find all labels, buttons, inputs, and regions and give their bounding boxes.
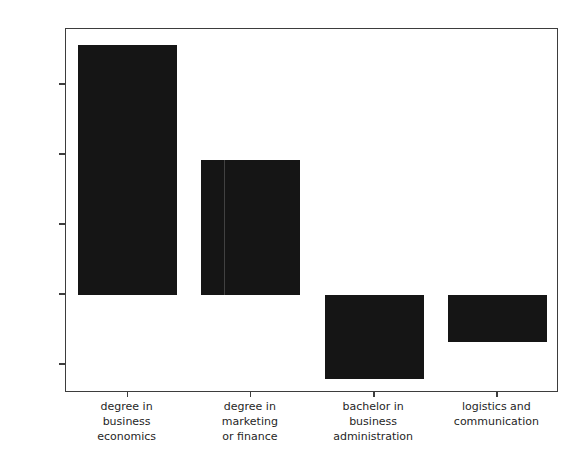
plot-area (65, 28, 558, 392)
x-tick-label: bachelor in business administration (312, 399, 435, 444)
bar (78, 45, 177, 295)
x-tick-mark (496, 392, 498, 397)
x-tick-mark (373, 392, 375, 397)
bar (448, 295, 547, 342)
chart-figure: Skill Difference 6040200-20 degree in bu… (0, 0, 587, 464)
x-tick-label: logistics and communication (435, 399, 558, 429)
x-tick-mark (127, 392, 129, 397)
x-tick-label: degree in marketing or finance (188, 399, 311, 444)
bar (325, 295, 424, 379)
x-tick-mark (250, 392, 252, 397)
bar (201, 160, 300, 295)
bar-scan-artifact (224, 160, 225, 295)
x-tick-label: degree in business economics (65, 399, 188, 444)
